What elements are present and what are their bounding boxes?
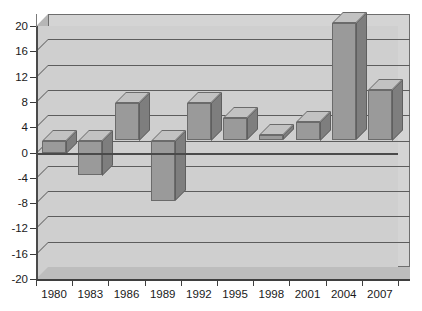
x-axis-tick-label: 2007 [367,288,393,300]
bar-front-face [115,103,139,141]
x-axis-tick-label: 1983 [78,288,104,300]
x-axis-tick [108,279,109,286]
bar-front-face [259,135,283,140]
x-axis-tick [145,279,146,286]
x-axis-tick [362,279,363,286]
bar-front-face [368,90,392,141]
bar [115,103,139,141]
x-axis-tick [326,279,327,286]
x-axis-tick [72,279,73,286]
bar [151,141,175,201]
x-axis-tick-label: 1995 [222,288,248,300]
bar-chart: 201612840-4-8-12-16-20 19801983198619891… [0,0,422,311]
x-axis-tick-label: 1989 [150,288,176,300]
bar-series [0,0,422,311]
bar [259,135,283,140]
bar-front-face [78,141,102,176]
bar [368,90,392,141]
bar-side-face [175,130,186,201]
bar [187,103,211,141]
x-axis-tick-label: 1986 [114,288,140,300]
zero-baseline [36,153,398,155]
x-axis-tick [253,279,254,286]
bar-front-face [296,122,320,141]
bar [42,141,66,154]
bar-front-face [151,141,175,201]
bar-front-face [332,23,356,140]
bar-front-face [223,118,247,140]
bar-front-face [42,141,66,154]
bar [78,141,102,176]
x-axis-tick-label: 1992 [186,288,212,300]
bar [296,122,320,141]
bar-side-face [356,12,367,140]
x-axis-tick [217,279,218,286]
x-axis-tick [181,279,182,286]
x-axis-tick-label: 2004 [331,288,357,300]
bar [223,118,247,140]
x-axis-tick-label: 1980 [41,288,67,300]
x-axis-tick [36,279,37,286]
x-axis-tick-label: 1998 [259,288,285,300]
x-axis-tick-label: 2001 [295,288,321,300]
bar-front-face [187,103,211,141]
bar [332,23,356,140]
x-axis-tick [289,279,290,286]
x-axis-tick [398,279,399,286]
x-axis-line [36,279,410,281]
